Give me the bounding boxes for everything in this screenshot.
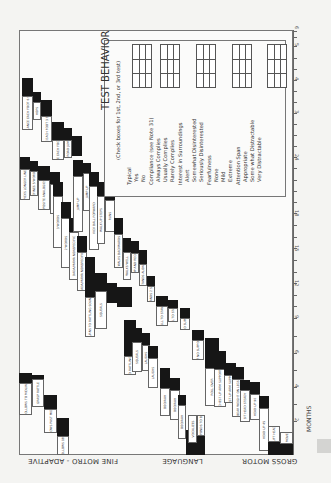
milestone-fine-motor: FOLLOWS 180	[57, 418, 69, 455]
axis-tick	[293, 404, 297, 405]
axis-tick	[293, 272, 297, 273]
behavior-category: Fearfulness	[206, 155, 212, 185]
months-axis	[293, 30, 294, 455]
section-label-language: LANGUAGE	[162, 457, 203, 465]
axis-tick-label: 12	[294, 280, 300, 286]
behavior-category: Typical	[126, 167, 132, 185]
axis-tick	[293, 336, 297, 337]
behavior-option: Always Complies	[155, 138, 161, 182]
test-behavior-subtitle: (Check boxes for 1st, 2nd, or 3rd test)	[115, 61, 121, 160]
behavior-option: No	[140, 175, 146, 182]
behavior-option: Yes	[133, 174, 139, 182]
axis-tick	[293, 191, 297, 192]
axis-tick	[293, 225, 297, 226]
behavior-option: Very Distractable	[256, 137, 262, 182]
milestone-language: LAUGHS	[148, 346, 158, 388]
behavior-option: Seriously Disinterested	[198, 122, 204, 182]
checkbox-grid-interest[interactable]	[196, 44, 216, 88]
milestone-language: SQUEALS	[132, 328, 142, 372]
milestone-fine-motor: BALANCE EACH FOOT 3 SECONDS	[41, 100, 52, 142]
milestone-language: OOO/AAH	[160, 368, 170, 416]
axis-tick	[293, 237, 297, 238]
milestone-gross-motor: WALKS WELL	[123, 238, 131, 280]
checkbox-grid-typical[interactable]	[132, 44, 152, 88]
behavior-option: Some what Distractable	[249, 120, 255, 182]
axis-tick	[293, 146, 297, 147]
checkbox-grid-attention[interactable]	[267, 44, 287, 88]
milestone-fine-motor: HOPS	[33, 92, 41, 122]
axis-tick	[293, 69, 297, 70]
milestone-gross-motor: STOOP AND RECOVER	[131, 241, 139, 273]
axis-tick-label: 6	[294, 26, 300, 29]
checkbox-grid-fearfulness[interactable]	[232, 44, 252, 88]
axis-tick	[293, 135, 297, 136]
page-tab-marker	[317, 439, 331, 453]
milestone-language	[117, 287, 132, 321]
axis-tick	[293, 180, 297, 181]
behavior-option: None	[213, 168, 219, 182]
milestone-gross-motor: SIT NO SUPPORT	[192, 330, 204, 360]
behavior-option: Appropriate	[242, 151, 248, 182]
behavior-option: Alert	[184, 170, 190, 182]
milestone-fine-motor: FOLLOWS PAST MIDLINE	[44, 395, 57, 433]
axis-tick-label: 4	[294, 77, 300, 80]
milestone-language	[197, 436, 205, 455]
milestone-fine-motor: BALANCE EACH FOOT 6 SEC	[22, 78, 33, 130]
behavior-option: Mild	[220, 171, 226, 182]
axis-tick	[293, 37, 297, 38]
milestone-fine-motor: BALANCE EACH FOOT 2 SEC	[52, 122, 64, 160]
checkbox-grid-compliance[interactable]	[160, 44, 180, 88]
axis-tick-label: 6	[294, 350, 300, 353]
milestone-gross-motor: EQUAL MOVEMENTS	[280, 432, 293, 455]
milestone-gross-motor: SIT HEAD STEADY	[240, 380, 250, 422]
milestone-language	[107, 283, 117, 319]
axis-tick	[293, 124, 297, 125]
axis-tick	[293, 295, 297, 296]
test-behavior-title: TEST BEHAVIOR	[100, 30, 111, 110]
axis-tick-label: 9	[294, 315, 300, 318]
milestone-language: VOCALIZES	[188, 415, 197, 443]
axis-tick-label: 2	[294, 418, 300, 421]
axis-tick	[293, 260, 297, 261]
axis-tick-label: 3	[294, 110, 300, 113]
milestone-fine-motor: BROAD JUMP	[64, 128, 72, 158]
axis-tick	[293, 168, 297, 169]
axis-tick	[293, 102, 297, 103]
milestone-language: TURNS TO RATTLING SOUND	[85, 257, 95, 337]
axis-tick	[293, 370, 297, 371]
milestone-gross-motor: PULL TO STAND	[168, 300, 178, 322]
section-label-gross-motor: GROSS MOTOR	[242, 457, 297, 465]
axis-tick	[293, 306, 297, 307]
milestone-gross-motor: STANDS ALONE	[139, 250, 147, 286]
axis-tick-label: 5	[294, 43, 300, 46]
axis-tick-label: 4	[294, 384, 300, 387]
behavior-option: Usually Complies	[162, 138, 168, 183]
axis-tick	[293, 91, 297, 92]
axis-tick-label: 18	[294, 210, 300, 216]
milestone-language: RESPONDS TO BELL	[197, 415, 205, 436]
axis-tick	[293, 58, 297, 59]
milestone-gross-motor: JUMP UP	[73, 160, 83, 232]
axis-tick	[293, 31, 297, 32]
months-axis-label: MONTHS	[305, 406, 312, 432]
axis-tick-label: 24	[294, 154, 300, 160]
milestone-gross-motor: PULL TO STAND	[156, 296, 168, 326]
axis-tick	[293, 202, 297, 203]
behavior-option: Somewhat Disinterested	[191, 118, 197, 182]
milestone-language: OOO/AAH	[178, 395, 186, 439]
milestone-language: OPPOSITE ANALOGIES 2	[38, 166, 50, 210]
section-label-fine-motor: FINE MOTRO - ADAPTIVE	[28, 457, 118, 465]
behavior-category: Compliance (see Note 31)	[148, 118, 154, 186]
milestone-language: DEFINES 5 WORDS	[30, 161, 38, 196]
milestone-gross-motor: STANDS 2 SEC	[147, 276, 155, 302]
milestone-gross-motor: SIT NO SUPPORT	[180, 308, 190, 330]
milestone-fine-motor: FOLLOWS TO MIDLINE	[19, 373, 32, 415]
behavior-category: Attention Span	[235, 146, 241, 185]
axis-tick-label: 15	[294, 245, 300, 251]
milestone-fine-motor	[72, 136, 82, 156]
milestone-gross-motor: LIFT HEAD	[268, 426, 280, 455]
milestone-language: SQUEALS	[95, 273, 107, 329]
behavior-option: Rarely Complies	[169, 140, 175, 182]
milestone-gross-motor: WALKS BACKWARDS	[114, 218, 123, 268]
milestone-fine-motor: GRASP RATTLE	[32, 375, 44, 407]
